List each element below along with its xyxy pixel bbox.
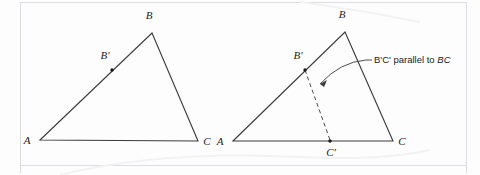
geometry-figure: A B C B' A B C B' C' B'C' parallel to BC	[0, 0, 480, 175]
annotation-label: B'C' parallel to BC	[374, 54, 451, 65]
left-b-prime-point	[110, 68, 113, 71]
right-point-label-b-prime: B'	[293, 49, 303, 61]
left-triangle-group: A B C B'	[23, 9, 212, 147]
annotation-group: B'C' parallel to BC	[320, 54, 451, 87]
left-vertex-label-a: A	[23, 134, 31, 146]
annotation-text-plain: B'C' parallel to	[374, 54, 437, 65]
right-triangle-outline	[233, 32, 393, 141]
scan-smudge-top	[300, 2, 420, 22]
right-triangle-group: A B C B' C'	[216, 8, 407, 158]
right-vertex-label-b: B	[339, 8, 346, 20]
scan-artifacts	[60, 2, 430, 175]
scan-smudge-bottom	[60, 150, 430, 175]
right-point-label-c-prime: C'	[326, 146, 336, 158]
right-vertex-label-a: A	[216, 135, 224, 147]
figure-container: A B C B' A B C B' C' B'C' parallel to BC	[0, 0, 480, 175]
right-c-prime-point	[328, 139, 331, 142]
annotation-text-emphasis: BC	[437, 54, 450, 65]
right-b-prime-point	[303, 68, 306, 71]
right-vertex-label-c: C	[398, 135, 406, 147]
annotation-arrowhead-icon	[320, 80, 327, 87]
left-triangle-outline	[40, 33, 198, 141]
left-vertex-label-c: C	[203, 135, 211, 147]
left-vertex-label-b: B	[146, 9, 153, 21]
page-frame	[21, 2, 467, 173]
left-point-label-b-prime: B'	[100, 49, 110, 61]
